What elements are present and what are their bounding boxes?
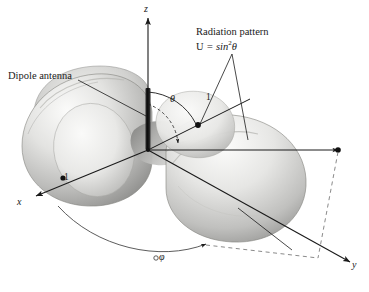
radiation-pattern-equation: U = sin2θ [196, 39, 269, 53]
equation-theta: θ [232, 41, 237, 52]
antenna-radiation-pattern-figure: Radiation pattern U = sin2θ Dipole anten… [0, 0, 369, 292]
angle-label-theta: θ [170, 93, 175, 105]
origin-dot [146, 148, 150, 152]
axis-label-x: x [17, 196, 21, 208]
angle-label-phi: φ [159, 251, 165, 263]
projection-line-vertical [318, 152, 338, 258]
projected-point-dot [335, 147, 341, 153]
dipole-antenna-callout: Dipole antenna [8, 70, 72, 82]
diagram-canvas [0, 0, 369, 292]
equation-equals-sin: = sin [204, 41, 229, 52]
dipole-antenna-element [146, 88, 151, 150]
equation-symbol-u: U [196, 41, 204, 52]
radiation-pattern-callout: Radiation pattern U = sin2θ [196, 26, 269, 53]
axis-label-y: y [352, 259, 356, 271]
axis-label-z: z [144, 3, 148, 15]
unit-marker-label-radial: 1 [206, 92, 211, 103]
unit-marker-radial-dot [195, 122, 201, 128]
unit-marker-label-x: 1 [64, 172, 69, 183]
radiation-pattern-label: Radiation pattern [196, 26, 269, 37]
phi-arc-marker [154, 256, 158, 260]
projection-line-ground [206, 245, 318, 258]
